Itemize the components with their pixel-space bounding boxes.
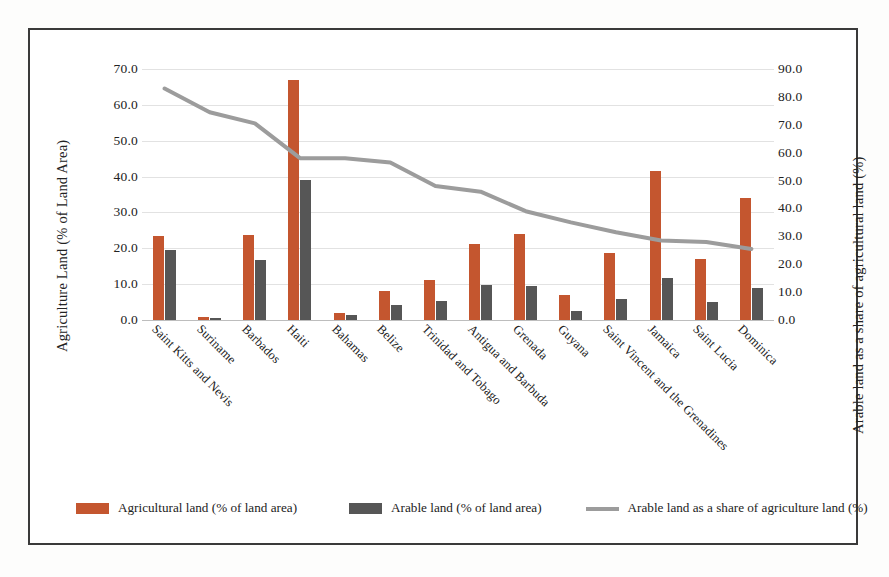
y-axis-right-title: Arable land as a share of agricultural l… bbox=[850, 156, 867, 434]
legend-item[interactable]: Agricultural land (% of land area) bbox=[76, 500, 297, 516]
x-category-label: Grenada bbox=[509, 322, 550, 363]
legend-swatch-icon bbox=[76, 503, 109, 514]
y-axis-left-title: Agriculture Land (% of Land Area) bbox=[54, 140, 71, 352]
x-category-label: Belize bbox=[374, 322, 408, 356]
x-category-label: Suriname bbox=[193, 322, 238, 367]
x-category-label: Bahamas bbox=[329, 322, 373, 366]
y-tick-right: 70.0 bbox=[778, 118, 824, 132]
y-tick-right: 60.0 bbox=[778, 146, 824, 160]
x-category-label: Guyana bbox=[554, 322, 593, 361]
line-arable-share bbox=[165, 89, 752, 249]
x-category-label: Haiti bbox=[283, 322, 312, 351]
y-tick-right: 30.0 bbox=[778, 230, 824, 244]
legend-item[interactable]: Arable land (% of land area) bbox=[349, 500, 541, 516]
y-tick-right: 80.0 bbox=[778, 90, 824, 104]
x-axis-category-labels: Saint Kitts and NevisSurinameBarbadosHai… bbox=[142, 322, 774, 472]
y-tick-left: 0.0 bbox=[92, 313, 138, 327]
x-category-label: Dominica bbox=[735, 322, 781, 368]
x-category-label: Trinidad and Tobago bbox=[419, 322, 505, 408]
legend-item[interactable]: Arable land as a share of agriculture la… bbox=[586, 500, 868, 516]
legend-swatch-icon bbox=[349, 503, 382, 514]
y-tick-right: 20.0 bbox=[778, 257, 824, 271]
y-tick-right: 0.0 bbox=[778, 313, 824, 327]
y-tick-left: 20.0 bbox=[92, 242, 138, 256]
y-tick-right: 50.0 bbox=[778, 174, 824, 188]
y-tick-left: 10.0 bbox=[92, 277, 138, 291]
x-category-label: Saint Lucia bbox=[690, 322, 742, 374]
y-tick-left: 30.0 bbox=[92, 206, 138, 220]
chart-legend: Agricultural land (% of land area)Arable… bbox=[76, 496, 836, 520]
y-axis-right-ticks: 0.010.020.030.040.050.060.070.080.090.0 bbox=[778, 69, 824, 320]
legend-label: Arable land (% of land area) bbox=[391, 500, 541, 516]
x-category-label: Jamaica bbox=[645, 322, 685, 362]
line-series-layer bbox=[142, 69, 774, 320]
y-axis-left-ticks: 0.010.020.030.040.050.060.070.0 bbox=[92, 69, 138, 320]
gridline bbox=[142, 320, 774, 321]
y-tick-right: 10.0 bbox=[778, 285, 824, 299]
y-tick-right: 90.0 bbox=[778, 62, 824, 76]
y-tick-right: 40.0 bbox=[778, 202, 824, 216]
x-category-label: Antigua and Barbuda bbox=[464, 322, 552, 410]
x-category-label: Barbados bbox=[238, 322, 283, 367]
y-tick-left: 70.0 bbox=[92, 62, 138, 76]
legend-label: Arable land as a share of agriculture la… bbox=[628, 500, 868, 516]
y-tick-left: 60.0 bbox=[92, 98, 138, 112]
legend-swatch-icon bbox=[586, 507, 619, 511]
y-tick-left: 50.0 bbox=[92, 134, 138, 148]
legend-label: Agricultural land (% of land area) bbox=[118, 500, 297, 516]
chart-frame: Agriculture Land (% of Land Area) Arable… bbox=[28, 28, 858, 545]
plot-area bbox=[142, 69, 774, 320]
y-tick-left: 40.0 bbox=[92, 170, 138, 184]
x-category-label: Saint Kitts and Nevis bbox=[148, 322, 236, 410]
